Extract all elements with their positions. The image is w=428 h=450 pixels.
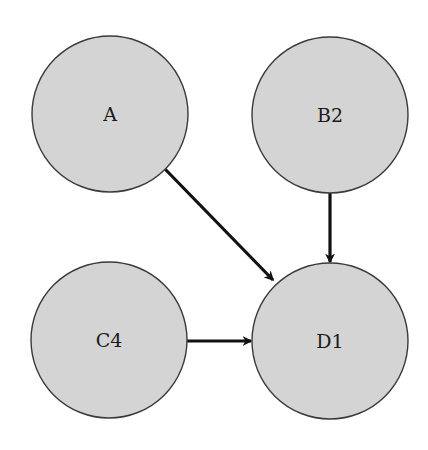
node-c4-label: C4	[96, 329, 123, 351]
node-d1-label: D1	[316, 330, 343, 352]
node-b2: B2	[252, 37, 408, 193]
node-a: A	[32, 36, 188, 192]
node-d1: D1	[252, 263, 408, 419]
diagram-canvas: A B2 C4 D1	[0, 0, 428, 450]
node-a-label: A	[102, 103, 117, 125]
node-c4: C4	[31, 262, 187, 418]
node-b2-label: B2	[317, 104, 343, 126]
edge-a-to-d1	[165, 169, 273, 280]
graph-svg: A B2 C4 D1	[0, 0, 428, 450]
